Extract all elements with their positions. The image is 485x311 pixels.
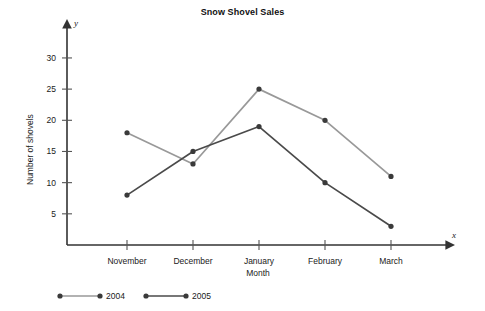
data-point — [322, 118, 327, 123]
x-axis-title: Month — [246, 268, 270, 278]
line-chart-plot: y 51015202530 Number of shovels x Novemb… — [0, 0, 485, 311]
data-point — [124, 130, 129, 135]
y-tick-label: 30 — [47, 53, 57, 63]
data-series — [124, 87, 393, 179]
x-tick-group: NovemberDecemberJanuaryFebruaryMarch — [107, 240, 403, 266]
y-tick-group: 51015202530 — [47, 53, 72, 219]
legend-marker — [57, 293, 62, 298]
y-tick-label: 15 — [47, 146, 57, 156]
legend-label-2004: 2004 — [106, 291, 125, 301]
x-tick-label: January — [244, 256, 275, 266]
data-series-group — [124, 87, 393, 229]
data-point — [322, 180, 327, 185]
series-line — [127, 127, 391, 227]
data-point — [388, 224, 393, 229]
x-tick-label: November — [107, 256, 146, 266]
legend-marker — [143, 293, 148, 298]
data-point — [190, 149, 195, 154]
y-axis-title: Number of shovels — [25, 114, 35, 185]
series-line — [127, 89, 391, 176]
chart-legend: 20042005 — [57, 291, 211, 301]
legend-marker — [97, 293, 102, 298]
data-point — [388, 174, 393, 179]
x-tick-label: March — [379, 256, 403, 266]
legend-marker — [183, 293, 188, 298]
x-tick-label: February — [308, 256, 343, 266]
data-point — [124, 193, 129, 198]
legend-label-2005: 2005 — [192, 291, 211, 301]
y-axis-variable-label: y — [73, 18, 78, 28]
x-axis-variable-label: x — [451, 230, 456, 240]
data-series — [124, 124, 393, 229]
x-tick-label: December — [173, 256, 212, 266]
y-tick-label: 25 — [47, 84, 57, 94]
data-point — [256, 124, 261, 129]
chart-container: Snow Shovel Sales y 51015202530 Number o… — [0, 0, 485, 311]
x-axis: x NovemberDecemberJanuaryFebruaryMarch M… — [67, 230, 456, 278]
y-tick-label: 10 — [47, 178, 57, 188]
y-axis: y 51015202530 Number of shovels — [25, 18, 78, 245]
data-point — [190, 161, 195, 166]
data-point — [256, 87, 261, 92]
y-tick-label: 20 — [47, 115, 57, 125]
y-tick-label: 5 — [51, 209, 56, 219]
